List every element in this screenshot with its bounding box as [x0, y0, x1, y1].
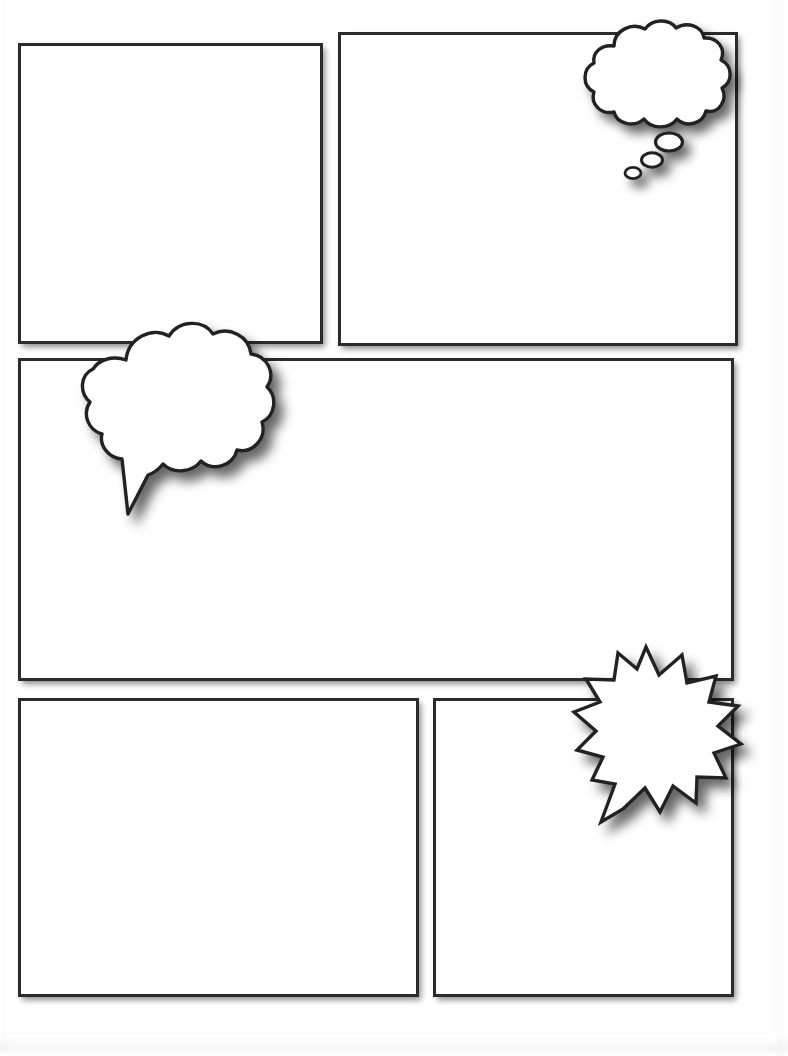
starburst-bubble-icon[interactable]: [560, 636, 750, 826]
speech-cloud-body: [82, 323, 273, 514]
thought-bubble-trail-large: [656, 133, 683, 151]
thought-bubble-icon[interactable]: [556, 20, 736, 190]
thought-bubble-trail-medium: [642, 153, 663, 167]
thought-bubble-body: [585, 21, 730, 127]
thought-bubble-trail-small: [625, 167, 641, 178]
comic-panel-bottom-left[interactable]: [18, 698, 419, 997]
comic-panel-top-left[interactable]: [18, 43, 323, 344]
comic-page: [0, 0, 788, 1056]
page-bottom-edge-artifact: [0, 1036, 788, 1056]
page-left-edge-artifact: [0, 0, 10, 1056]
starburst-bubble-body: [574, 647, 741, 822]
speech-cloud-icon[interactable]: [66, 308, 288, 520]
page-right-edge-artifact: [770, 0, 788, 1056]
